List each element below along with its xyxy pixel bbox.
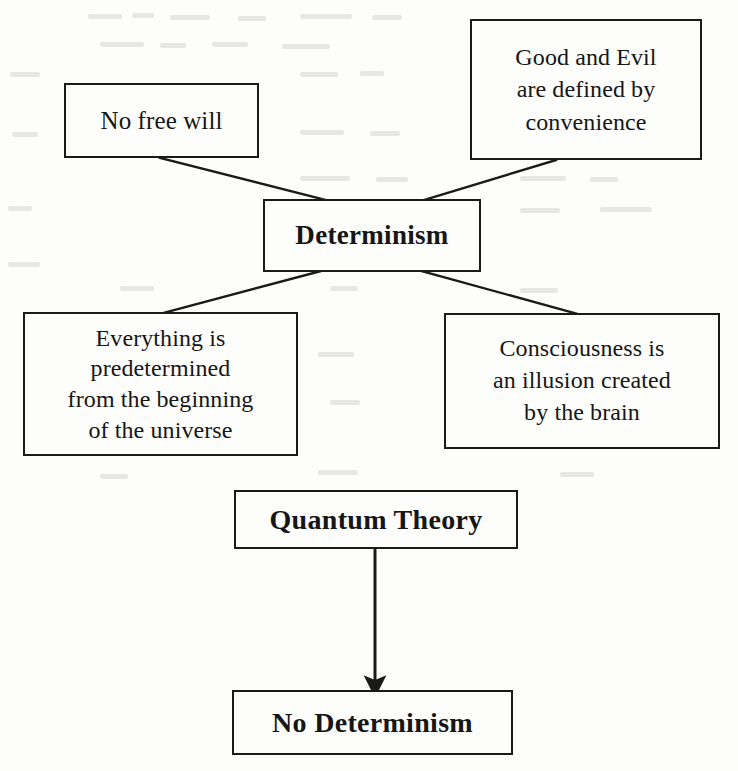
- node-quantum-theory[interactable]: Quantum Theory: [234, 490, 518, 549]
- connector-determinism-to-everything: [163, 271, 321, 313]
- node-determinism-label: Determinism: [265, 220, 479, 252]
- node-determinism[interactable]: Determinism: [263, 199, 481, 272]
- connector-no-free-will-to-determinism: [160, 158, 326, 200]
- connector-good-and-evil-to-determinism: [424, 160, 556, 200]
- node-everything-is-predetermined-label: Everything is predetermined from the beg…: [25, 323, 296, 446]
- connector-determinism-to-consciousness: [421, 271, 578, 314]
- node-quantum-theory-label: Quantum Theory: [236, 503, 516, 536]
- node-good-and-evil[interactable]: Good and Evil are defined by convenience: [470, 19, 702, 160]
- node-consciousness-is-an-illusion-label: Consciousness is an illusion created by …: [446, 333, 718, 429]
- node-everything-is-predetermined[interactable]: Everything is predetermined from the beg…: [23, 312, 298, 456]
- node-consciousness-is-an-illusion[interactable]: Consciousness is an illusion created by …: [444, 313, 720, 449]
- node-no-determinism[interactable]: No Determinism: [232, 690, 513, 755]
- node-good-and-evil-label: Good and Evil are defined by convenience: [472, 41, 700, 138]
- diagram-canvas: No free will Good and Evil are defined b…: [0, 0, 738, 771]
- node-no-free-will-label: No free will: [66, 106, 257, 136]
- node-no-determinism-label: No Determinism: [234, 706, 511, 739]
- node-no-free-will[interactable]: No free will: [64, 83, 259, 158]
